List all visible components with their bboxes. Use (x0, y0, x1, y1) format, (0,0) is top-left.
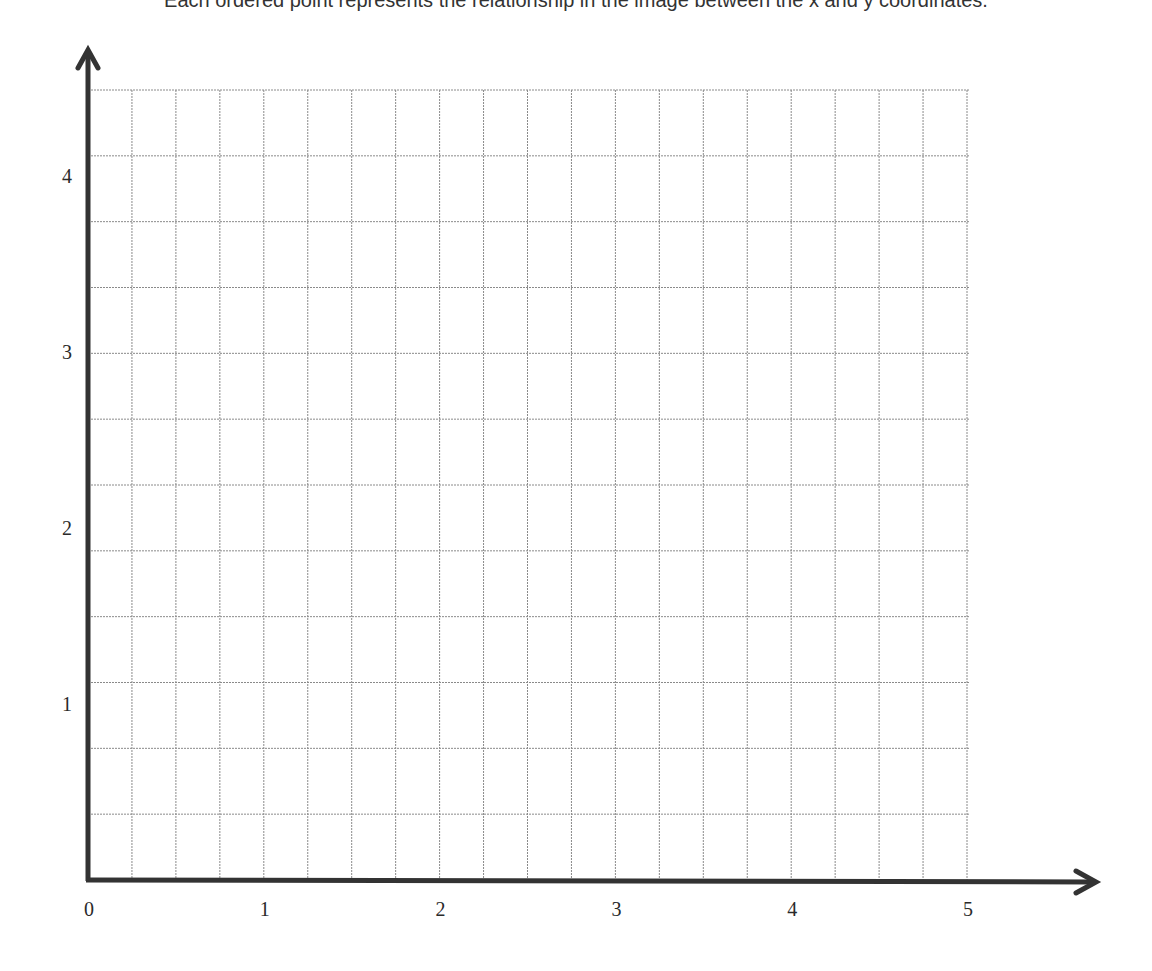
grid-lines (88, 90, 969, 880)
y-tick-label: 4 (62, 165, 72, 187)
x-tick-label: 4 (787, 898, 797, 920)
x-tick-labels: 012345 (84, 898, 973, 920)
x-tick-label: 3 (611, 898, 621, 920)
y-tick-labels: 1234 (62, 165, 72, 715)
coordinate-grid: 012345 1234 (0, 0, 1152, 971)
x-axis (86, 880, 1092, 882)
axes (78, 50, 1096, 893)
y-tick-label: 2 (62, 517, 72, 539)
x-tick-label: 1 (260, 898, 270, 920)
y-tick-label: 3 (62, 341, 72, 363)
x-tick-label: 5 (963, 898, 973, 920)
y-tick-label: 1 (62, 693, 72, 715)
x-tick-label: 2 (436, 898, 446, 920)
x-tick-label: 0 (84, 898, 94, 920)
